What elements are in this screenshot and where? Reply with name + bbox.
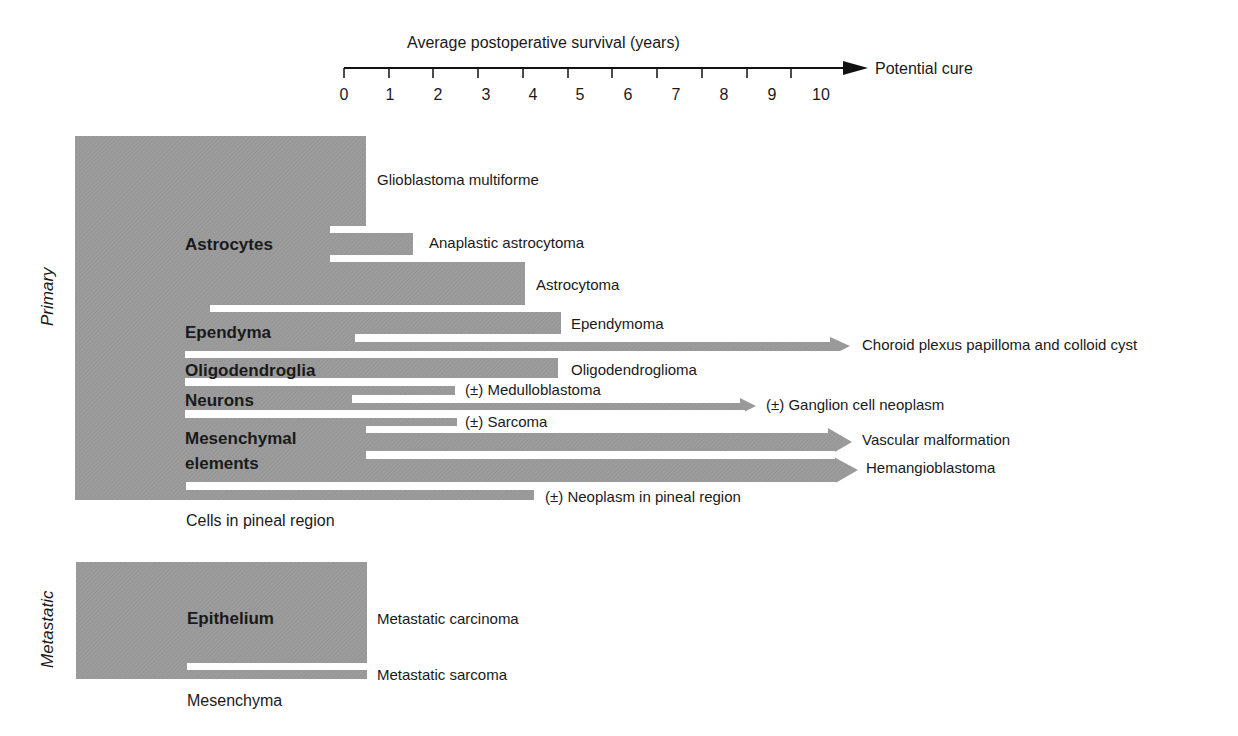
label-gbm: Glioblastoma multiforme <box>377 171 539 188</box>
svg-text:10: 10 <box>812 86 830 103</box>
cell-type-mesenchyma: Mesenchyma <box>187 692 282 709</box>
x-axis: Average postoperative survival (years) P… <box>340 34 973 103</box>
label-met-carcinoma: Metastatic carcinoma <box>377 610 519 627</box>
svg-text:2: 2 <box>434 86 443 103</box>
label-ependymoma: Ependymoma <box>571 315 664 332</box>
label-anaplastic: Anaplastic astrocytoma <box>429 234 585 251</box>
svg-text:7: 7 <box>672 86 681 103</box>
cell-type-oligodendroglia: Oligodendroglia <box>185 361 316 380</box>
svg-text:4: 4 <box>529 86 538 103</box>
label-vascular: Vascular malformation <box>862 431 1010 448</box>
section-primary-label: Primary <box>38 266 57 326</box>
bar-ganglion <box>180 403 742 410</box>
label-sarcoma: (±) Sarcoma <box>465 413 548 430</box>
label-oligodendroglioma: Oligodendroglioma <box>571 361 698 378</box>
cell-type-pineal: Cells in pineal region <box>186 512 335 529</box>
label-medulloblastoma: (±) Medulloblastoma <box>465 381 601 398</box>
svg-text:3: 3 <box>482 86 491 103</box>
cell-type-neurons: Neurons <box>185 391 254 410</box>
axis-tick-labels: 0 1 2 3 4 5 6 7 8 9 10 <box>340 86 830 103</box>
svg-text:0: 0 <box>340 86 349 103</box>
bar-anaplastic <box>330 233 413 255</box>
section-metastatic-label: Metastatic <box>38 590 57 668</box>
svg-text:8: 8 <box>720 86 729 103</box>
axis-title: Average postoperative survival (years) <box>407 34 680 51</box>
survival-diagram: Average postoperative survival (years) P… <box>0 0 1238 736</box>
svg-text:5: 5 <box>576 86 585 103</box>
label-ganglion: (±) Ganglion cell neoplasm <box>766 396 944 413</box>
cell-type-mesenchymal-line1: Mesenchymal <box>185 429 297 448</box>
label-hemangioblastoma: Hemangioblastoma <box>866 459 996 476</box>
label-astrocytoma: Astrocytoma <box>536 276 620 293</box>
cell-type-astrocytes: Astrocytes <box>185 235 273 254</box>
label-choroid: Choroid plexus papilloma and colloid cys… <box>862 336 1138 353</box>
arrow-hemangioblastoma-icon <box>832 456 858 485</box>
cell-type-epithelium: Epithelium <box>187 609 274 628</box>
cell-type-mesenchymal-line2: elements <box>185 454 259 473</box>
cell-type-ependyma: Ependyma <box>185 323 272 342</box>
label-pineal-neoplasm: (±) Neoplasm in pineal region <box>545 488 741 505</box>
bar-astrocytoma <box>330 262 525 305</box>
svg-text:1: 1 <box>386 86 395 103</box>
bar-pineal <box>180 490 534 500</box>
svg-text:6: 6 <box>624 86 633 103</box>
bar-hemangioblastoma <box>180 459 834 482</box>
axis-arrow-icon <box>843 61 868 75</box>
axis-end-label: Potential cure <box>875 60 973 77</box>
svg-text:9: 9 <box>768 86 777 103</box>
axis-ticks <box>344 68 791 78</box>
bar-sarcoma <box>180 418 457 426</box>
bar-choroid <box>200 342 832 352</box>
label-met-sarcoma: Metastatic sarcoma <box>377 666 508 683</box>
